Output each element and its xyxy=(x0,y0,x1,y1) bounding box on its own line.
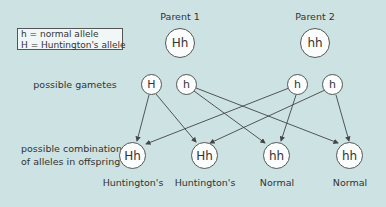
allele-legend: h = normal allele H = Huntington's allel… xyxy=(17,28,123,50)
parent-2-genotype: hh xyxy=(300,28,330,58)
offspring-row-label: possible combination of alleles in offsp… xyxy=(21,142,122,168)
gamete-p1-h: h xyxy=(176,74,197,95)
gamete-p2-h-left: h xyxy=(287,74,308,95)
legend-huntingtons-allele: H = Huntington's allele xyxy=(21,40,122,51)
gamete-p1-H: H xyxy=(141,74,162,95)
offspring-label-line1: possible combination xyxy=(21,142,122,155)
legend-normal-allele: h = normal allele xyxy=(21,29,122,40)
offspring-4-phenotype: Normal xyxy=(333,177,367,188)
offspring-label-line2: of alleles in offspring xyxy=(21,155,122,168)
offspring-3-genotype: hh xyxy=(263,142,290,169)
parent-2-label: Parent 2 xyxy=(295,11,334,22)
offspring-1-genotype: Hh xyxy=(119,142,146,169)
gamete-p2-h-right: h xyxy=(322,74,343,95)
parent-1-label: Parent 1 xyxy=(160,11,199,22)
offspring-2-genotype: Hh xyxy=(191,142,218,169)
offspring-3-phenotype: Normal xyxy=(260,177,294,188)
punnett-cross-diagram: h = normal allele H = Huntington's allel… xyxy=(0,0,386,207)
offspring-2-phenotype: Huntington's xyxy=(175,177,236,188)
offspring-1-phenotype: Huntington's xyxy=(103,177,164,188)
offspring-4-genotype: hh xyxy=(336,142,363,169)
gametes-row-label: possible gametes xyxy=(33,79,116,90)
parent-1-genotype: Hh xyxy=(165,28,195,58)
